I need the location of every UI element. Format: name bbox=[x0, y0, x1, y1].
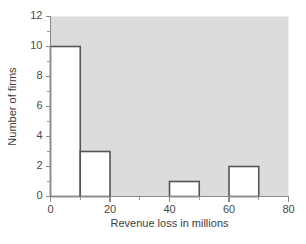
histogram-bar bbox=[229, 167, 259, 197]
x-tick-label: 20 bbox=[104, 203, 116, 215]
x-tick-label: 40 bbox=[163, 203, 175, 215]
histogram-bar bbox=[80, 152, 110, 197]
x-tick-label: 0 bbox=[47, 203, 53, 215]
y-tick-label: 6 bbox=[36, 99, 42, 111]
x-tick-label: 60 bbox=[223, 203, 235, 215]
y-tick-label: 4 bbox=[36, 129, 42, 141]
y-tick-label: 2 bbox=[36, 159, 42, 171]
y-tick-labels: 024681012 bbox=[30, 9, 42, 201]
x-tick-labels: 020406080 bbox=[47, 203, 294, 215]
y-tick-label: 10 bbox=[30, 39, 42, 51]
y-axis-title: Number of firms bbox=[6, 67, 18, 146]
histogram-bar bbox=[170, 182, 200, 197]
histogram-chart: 024681012 020406080 Revenue loss in mill… bbox=[0, 0, 306, 244]
y-tick-label: 12 bbox=[30, 9, 42, 21]
chart-figure: 024681012 020406080 Revenue loss in mill… bbox=[0, 0, 306, 244]
y-tick-label: 8 bbox=[36, 69, 42, 81]
x-axis-title: Revenue loss in millions bbox=[111, 217, 229, 229]
x-tick-label: 80 bbox=[282, 203, 294, 215]
histogram-bar bbox=[51, 47, 81, 197]
y-tick-label: 0 bbox=[36, 189, 42, 201]
